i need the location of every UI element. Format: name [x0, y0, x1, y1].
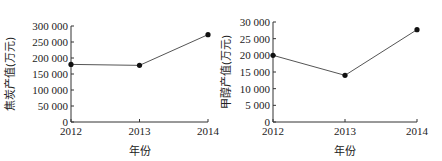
data-point [342, 73, 347, 78]
x-tick-label: 2013 [129, 125, 152, 137]
y-tick-label: 200 000 [32, 52, 68, 64]
x-tick-label: 2014 [406, 125, 429, 137]
y-tick-label: 300 000 [32, 20, 68, 32]
data-point [205, 32, 210, 37]
coke-series-points [68, 32, 210, 68]
coke-output-chart: 050 000100 000150 000200 000250 000300 0… [3, 20, 220, 158]
y-tick-label: 50 000 [38, 100, 69, 112]
x-tick-label: 2012 [60, 125, 82, 137]
y-tick-label: 100 000 [32, 84, 68, 96]
x-axis-title: 年份 [129, 144, 151, 158]
x-tick-label: 2012 [262, 125, 284, 137]
methanol-series-points [270, 27, 419, 78]
y-tick-label: 150 000 [32, 68, 68, 80]
x-axis-title: 年份 [334, 144, 356, 158]
methanol-series-line [273, 30, 417, 76]
y-tick-label: 30 000 [240, 16, 271, 28]
data-point [270, 53, 275, 58]
y-axis-title: 焦炭产值(万元) [3, 37, 17, 112]
x-tick-label: 2013 [334, 125, 357, 137]
chart-canvas: 050 000100 000150 000200 000250 000300 0… [0, 0, 442, 161]
data-point [137, 63, 142, 68]
y-tick-label: 20 000 [240, 49, 271, 61]
y-tick-label: 15 000 [240, 66, 271, 78]
y-axis-title: 甲醇产值(万元) [219, 35, 233, 110]
data-point [414, 27, 419, 32]
y-tick-label: 250 000 [32, 36, 68, 48]
data-point [68, 62, 73, 67]
methanol-output-chart: 05 00010 00015 00020 00025 00030 000 201… [219, 16, 429, 158]
y-tick-label: 5 000 [245, 99, 270, 111]
x-tick-label: 2014 [197, 125, 220, 137]
y-tick-label: 25 000 [240, 33, 271, 45]
y-ticks: 050 000100 000150 000200 000250 000300 0… [32, 20, 74, 128]
coke-series-line [71, 35, 208, 66]
y-tick-label: 10 000 [240, 83, 271, 95]
y-ticks: 05 00010 00015 00020 00025 00030 000 [240, 16, 276, 128]
